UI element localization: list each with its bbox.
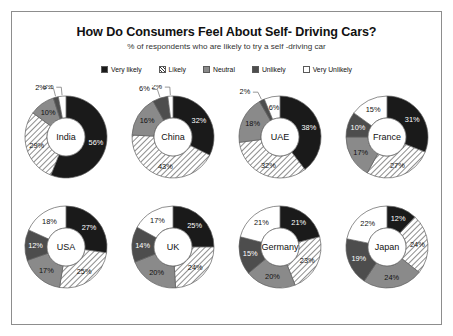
slice-label: 27% (390, 161, 405, 170)
country-label: India (56, 132, 76, 142)
country-label: China (161, 132, 185, 142)
slice-label: 20% (149, 268, 164, 277)
legend-item: Very Unlikely (303, 66, 352, 73)
donut-chart-germany: 21%23%20%15%21%Germany (227, 192, 334, 302)
slice-label: 56% (88, 138, 103, 147)
slice-label: 38% (302, 123, 317, 132)
slice-label: 18% (245, 119, 260, 128)
slice-label: 14% (135, 241, 150, 250)
country-label: France (373, 132, 401, 142)
donut-chart-japan: 12%24%24%19%22%Japan (334, 192, 441, 302)
slice-label: 21% (291, 218, 306, 227)
label-leader-line (152, 89, 159, 97)
donut-chart-india: 56%29%10%2%3%India (12, 82, 119, 192)
donut-chart-grid: 56%29%10%2%3%India32%43%16%6%2%China38%3… (12, 82, 441, 302)
label-leader-line (253, 92, 262, 99)
slice-label: 20% (265, 272, 280, 281)
slice-label: 29% (29, 141, 44, 150)
slice-label: 2% (151, 85, 162, 91)
slice-label: 22% (361, 219, 376, 228)
donut-chart-china: 32%43%16%6%2%China (119, 82, 226, 192)
country-label: UAE (271, 132, 290, 142)
slice-label: 24% (385, 273, 400, 282)
legend-item: Very likely (101, 66, 142, 73)
slice-label: 16% (140, 116, 155, 125)
label-leader-line (56, 87, 62, 95)
legend-label: Likely (169, 66, 186, 73)
slice-label: 24% (410, 240, 425, 249)
donut-chart-uk: 25%24%20%14%17%UK (119, 192, 226, 302)
slice-label: 17% (150, 216, 165, 225)
page-title: How Do Consumers Feel About Self- Drivin… (12, 25, 441, 39)
slice-label: 12% (28, 241, 43, 250)
slice-label: 27% (81, 223, 96, 232)
slice-label: 23% (300, 256, 315, 265)
chart-legend: Very likelyLikelyNeutralUnlikelyVery Unl… (12, 66, 441, 73)
slice-label: 32% (191, 116, 206, 125)
slice-label: 15% (366, 105, 381, 114)
slice-label: 19% (352, 254, 367, 263)
legend-label: Very Unlikely (313, 66, 352, 73)
legend-swatch-likely (159, 66, 166, 73)
donut-chart-france: 31%27%17%10%15%France (334, 82, 441, 192)
country-label: USA (56, 242, 75, 252)
slice-label: 18% (42, 217, 57, 226)
slice-label: 17% (39, 266, 54, 275)
slice-label: 32% (261, 161, 276, 170)
legend-item: Likely (159, 66, 186, 73)
country-label: UK (167, 242, 180, 252)
slice-label: 17% (354, 148, 369, 157)
legend-label: Very likely (111, 66, 142, 73)
slice-label: 2% (240, 87, 251, 96)
slice-label: 10% (40, 108, 55, 117)
slice-label: 25% (187, 221, 202, 230)
legend-swatch-unlikely (252, 66, 259, 73)
label-leader-line (165, 87, 171, 95)
slice-label: 31% (405, 115, 420, 124)
slice-label: 25% (76, 267, 91, 276)
chart-frame: How Do Consumers Feel About Self- Drivin… (11, 11, 442, 325)
country-label: Germany (262, 242, 300, 252)
donut-chart-usa: 27%25%17%12%18%USA (12, 192, 119, 302)
legend-swatch-very-unlikely (303, 66, 310, 73)
slice-label: 6% (269, 103, 280, 112)
chart-subtitle: % of respondents who are likely to try a… (12, 42, 441, 51)
legend-swatch-very-likely (101, 66, 108, 73)
country-label: Japan (375, 242, 400, 252)
legend-swatch-neutral (203, 66, 210, 73)
slice-label: 6% (139, 85, 150, 93)
slice-label: 12% (391, 214, 406, 223)
legend-label: Unlikely (262, 66, 286, 73)
slice-label: 3% (43, 85, 54, 91)
legend-item: Unlikely (252, 66, 286, 73)
slice-label: 21% (254, 218, 269, 227)
slice-label: 43% (158, 162, 173, 171)
legend-item: Neutral (203, 66, 235, 73)
slice-label: 24% (188, 263, 203, 272)
slice-label: 10% (351, 123, 366, 132)
slice-label: 15% (243, 249, 258, 258)
legend-label: Neutral (213, 66, 235, 73)
donut-chart-uae: 38%32%18%2%6%UAE (227, 82, 334, 192)
